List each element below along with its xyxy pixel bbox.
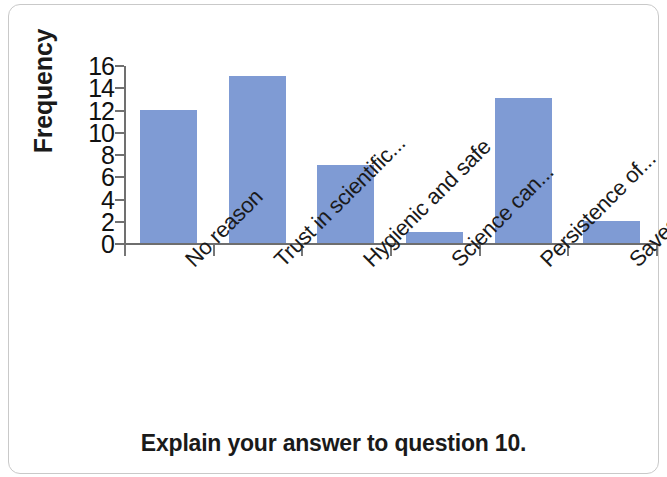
x-axis-category-label: Science can... [446, 254, 464, 272]
y-axis-tick-mark [115, 221, 124, 223]
y-axis-tick-mark [115, 65, 124, 67]
x-axis-category-labels: No reasonTrust in scientific...Hygienic … [124, 248, 656, 408]
x-axis-category-label: Saves water and... [624, 254, 642, 272]
x-axis-category-label: Persistence of... [535, 254, 553, 272]
bar [140, 110, 197, 244]
x-axis-title: Explain your answer to question 10. [0, 430, 667, 457]
y-axis-tick-labels: 1614121086420 [62, 52, 114, 252]
x-axis-category-label: No reason [180, 254, 198, 272]
y-axis-title: Frequency [30, 0, 56, 186]
x-axis-category-label: Hygienic and safe [358, 254, 376, 272]
x-axis-category-label: Trust in scientific... [269, 254, 287, 272]
bar-chart-figure: Frequency 1614121086420 No reasonTrust i… [0, 0, 667, 477]
y-axis-tick-mark [115, 243, 124, 245]
y-axis-tick-mark [115, 110, 124, 112]
y-axis-tick-mark [115, 199, 124, 201]
y-axis-tick-mark [115, 87, 124, 89]
y-axis-tick-mark [115, 154, 124, 156]
y-axis-tick-mark [115, 132, 124, 134]
y-axis-tick-mark [115, 176, 124, 178]
y-axis-tick-label: 0 [62, 232, 114, 257]
bar [406, 232, 463, 243]
